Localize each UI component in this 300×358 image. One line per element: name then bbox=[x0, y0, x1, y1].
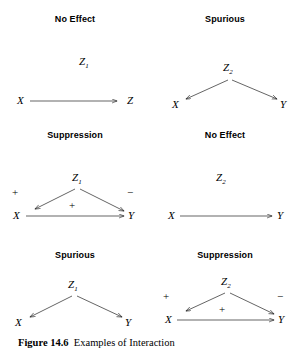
panel-title-middle-left: Suppression bbox=[0, 130, 150, 140]
figure-caption-text: Examples of Interaction bbox=[74, 337, 175, 348]
node-y-bottom-left: Y bbox=[125, 317, 131, 328]
panel-title-bottom-left: Spurious bbox=[0, 250, 150, 260]
sign-right-middle-left: − bbox=[127, 187, 133, 198]
panel-title-top-right: Spurious bbox=[150, 14, 300, 24]
node-y-middle-left: Y bbox=[128, 210, 134, 221]
node-z-target-top-left: Z bbox=[127, 95, 133, 106]
sign-left-middle-left: + bbox=[12, 187, 18, 198]
panel-title-top-left: No Effect bbox=[0, 14, 150, 24]
figure-container: No Effect Z1 X Z Spurious Z2 X Y Suppres… bbox=[0, 0, 300, 358]
node-z-middle-left: Z1 bbox=[72, 172, 82, 186]
sign-center-middle-left: + bbox=[69, 200, 75, 211]
sign-center-bottom-right: + bbox=[219, 304, 225, 315]
node-x-bottom-right: X bbox=[165, 314, 172, 325]
node-z-bottom-right: Z2 bbox=[221, 276, 231, 290]
node-x-middle-left: X bbox=[13, 210, 20, 221]
node-z-bottom-left: Z1 bbox=[68, 279, 78, 293]
sign-right-bottom-right: − bbox=[277, 291, 283, 302]
node-y-bottom-right: Y bbox=[278, 314, 284, 325]
figure-caption: Figure 14.6 Examples of Interaction bbox=[18, 337, 288, 348]
figure-number: Figure 14.6 bbox=[18, 337, 69, 348]
node-x-top-left: X bbox=[17, 95, 24, 106]
node-x-top-right: X bbox=[172, 99, 179, 110]
node-y-middle-right: Y bbox=[277, 210, 283, 221]
node-x-middle-right: X bbox=[168, 210, 175, 221]
node-z-top-right: Z2 bbox=[223, 62, 233, 76]
node-y-top-right: Y bbox=[280, 99, 286, 110]
node-z-middle-right: Z2 bbox=[216, 172, 226, 186]
panel-title-middle-right: No Effect bbox=[150, 130, 300, 140]
panel-title-bottom-right: Suppression bbox=[150, 250, 300, 260]
sign-left-bottom-right: + bbox=[163, 291, 169, 302]
node-z-top-left: Z1 bbox=[79, 56, 89, 70]
node-x-bottom-left: X bbox=[15, 317, 22, 328]
